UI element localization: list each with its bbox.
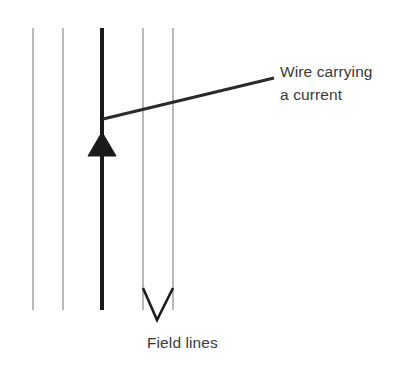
field-lines-label: Field lines <box>147 331 218 354</box>
field-direction-arrowhead <box>143 288 173 320</box>
diagram-canvas <box>0 0 408 376</box>
physics-diagram-figure: Wire carryinga current Field lines <box>0 0 408 376</box>
current-direction-arrowhead <box>88 132 116 156</box>
wire-label-line-2: a current <box>280 86 342 103</box>
wire-label-line-1: Wire carrying <box>280 63 373 80</box>
wire-label-leader-line <box>103 78 274 119</box>
wire-label: Wire carryinga current <box>280 60 373 106</box>
